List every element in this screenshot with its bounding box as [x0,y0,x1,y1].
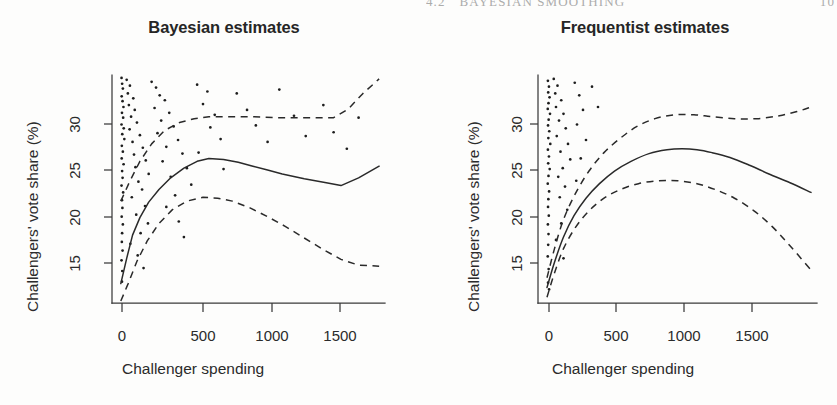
data-point [555,135,558,138]
data-point [121,82,124,85]
data-point [591,85,594,88]
data-point [345,147,348,150]
data-point [156,132,159,135]
panel-frequentist: Frequentist estimates Challengers' vote … [417,0,837,405]
data-point [554,92,557,95]
data-point [549,112,552,115]
data-point [147,173,150,176]
data-point [130,115,133,118]
data-point [547,137,550,140]
data-point [564,127,567,130]
data-point [158,94,161,97]
data-point [246,109,249,112]
data-point [219,138,222,141]
data-point [547,118,550,121]
data-point [129,84,132,87]
data-point [547,233,550,236]
data-point [547,268,550,271]
data-point [278,88,281,91]
data-point [120,95,123,98]
data-point [558,119,561,122]
data-point [332,131,335,134]
data-point [209,126,212,129]
data-point [177,220,180,223]
data-point [120,123,123,126]
data-point [556,84,559,87]
scatter-points-frequentist [546,78,599,291]
data-point [136,254,139,257]
data-point [576,123,579,126]
data-point [153,107,156,110]
data-point [165,145,168,148]
data-point [122,87,125,90]
data-point [562,257,565,260]
data-point [165,206,168,209]
data-point [546,255,549,258]
data-point [548,190,551,193]
data-point [122,163,125,166]
data-point [552,78,555,81]
data-point [139,232,142,235]
data-point [222,168,225,171]
data-point [125,79,128,82]
data-point [121,170,124,173]
data-point [120,184,123,187]
panel-bayesian: Bayesian estimates Challengers' vote sha… [0,0,420,405]
data-point [120,77,123,80]
scatter-points-bayesian [120,77,360,283]
data-point [202,103,205,106]
data-point [121,111,124,114]
data-point [548,155,551,158]
series-solid [547,149,811,288]
data-point [567,143,570,146]
data-point [293,114,296,117]
data-point [254,124,257,127]
series-dashed [121,197,379,301]
data-point [561,167,564,170]
data-point [559,150,562,153]
data-point [134,166,137,169]
data-point [575,179,578,182]
data-point [163,99,166,102]
data-point [121,176,124,179]
data-point [549,143,552,146]
data-point [547,243,550,246]
data-point [548,85,551,88]
data-point [122,127,125,130]
data-point [155,86,158,89]
data-point [547,102,550,105]
figure-page: 4.2 BAYESIAN SMOOTHING 10 Bayesian estim… [0,0,837,405]
data-point [122,116,125,119]
data-point [120,157,123,160]
data-point [547,206,550,209]
data-point [122,150,125,153]
data-point [562,112,565,115]
data-point [266,141,269,144]
data-point [564,185,567,188]
fit-curves-bayesian [121,79,379,301]
data-point [181,152,184,155]
data-point [560,99,563,102]
data-point [578,94,581,97]
data-point [196,83,199,86]
data-point [120,144,123,147]
data-point [190,183,193,186]
data-point [121,232,124,235]
data-point [566,209,569,212]
data-point [547,91,550,94]
data-point [585,139,588,142]
data-point [136,121,139,124]
data-point [142,267,145,270]
data-point [357,116,360,119]
data-point [197,151,200,154]
data-point [141,188,144,191]
data-point [546,182,549,185]
data-point [579,157,582,160]
data-point [121,207,124,210]
data-point [558,196,561,199]
data-point [555,106,558,109]
data-point [130,196,133,199]
axes-bayesian [104,75,385,312]
data-point [132,97,135,100]
data-point [322,104,325,107]
